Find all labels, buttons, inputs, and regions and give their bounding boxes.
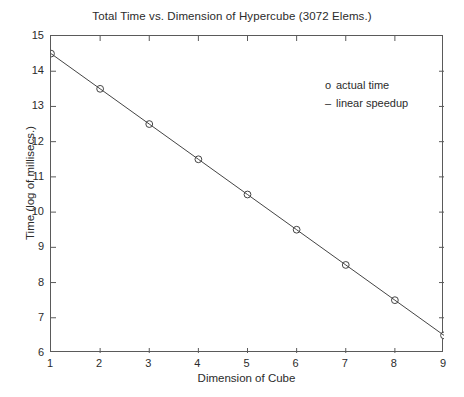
legend-item: oactual time (325, 76, 408, 94)
x-tick-label: 5 (232, 357, 262, 369)
x-tick-label: 9 (428, 357, 458, 369)
x-tick-label: 3 (133, 357, 163, 369)
chart-title: Total Time vs. Dimension of Hypercube (3… (0, 10, 464, 22)
x-tick-label: 8 (379, 357, 409, 369)
legend-item: –linear speedup (325, 94, 408, 112)
x-tick-label: 4 (182, 357, 212, 369)
x-tick-label: 7 (330, 357, 360, 369)
x-tick-label: 2 (84, 357, 114, 369)
legend-label: actual time (336, 76, 389, 94)
y-tick-label: 12 (0, 135, 44, 147)
y-tick-label: 7 (0, 311, 44, 323)
y-tick-label: 15 (0, 29, 44, 41)
x-tick-label: 6 (281, 357, 311, 369)
chart-figure: Total Time vs. Dimension of Hypercube (3… (0, 0, 464, 397)
y-tick-label: 14 (0, 64, 44, 76)
legend-label: linear speedup (336, 94, 408, 112)
y-tick-label: 8 (0, 276, 44, 288)
y-tick-label: 10 (0, 205, 44, 217)
y-tick-label: 13 (0, 99, 44, 111)
y-axis-tick-labels: 6789101112131415 (0, 35, 44, 352)
legend-marker-icon: – (325, 94, 336, 112)
x-axis-tick-labels: 123456789 (50, 357, 443, 373)
x-tick-label: 1 (35, 357, 65, 369)
y-axis-title: Time (log of millisecs.) (24, 83, 36, 283)
y-tick-label: 11 (0, 170, 44, 182)
x-axis-title: Dimension of Cube (50, 372, 443, 384)
legend-marker-icon: o (325, 76, 336, 94)
chart-legend: oactual time–linear speedup (325, 76, 408, 112)
y-tick-label: 9 (0, 240, 44, 252)
